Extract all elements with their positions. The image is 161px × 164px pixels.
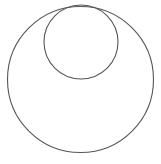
diagram-canvas bbox=[0, 0, 161, 164]
inner-circle bbox=[44, 5, 118, 79]
